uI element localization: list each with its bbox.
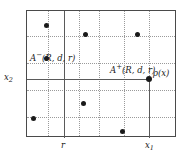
gridline-horizontal	[27, 90, 175, 91]
rho-point	[146, 76, 152, 82]
region-label-a-plus-args: (R, d, r)	[122, 65, 155, 75]
threshold-line-x1	[149, 79, 150, 138]
region-label-a-plus: A+(R, d, r)	[110, 64, 155, 74]
data-point	[44, 23, 49, 28]
axis-label-x: x1	[145, 141, 154, 150]
region-label-a-minus-args: (R, d, r)	[42, 53, 75, 63]
threshold-line-x2	[27, 79, 149, 80]
data-point	[81, 101, 86, 106]
axis-label-y: x2	[4, 73, 13, 82]
data-point	[83, 32, 88, 37]
gridline-horizontal	[27, 117, 175, 118]
axis-tick-label-r: r	[61, 141, 65, 150]
rho-point-label: ρ(x)	[153, 69, 169, 78]
figure-root: A−(R, d, r) A+(R, d, r) ρ(x) x2 r x1	[0, 0, 191, 159]
data-point	[120, 129, 125, 134]
axis-label-y-subscript: 2	[9, 76, 13, 84]
axis-label-x-subscript: 1	[150, 144, 154, 152]
data-point	[31, 116, 36, 121]
threshold-line-r	[64, 11, 65, 138]
region-label-a-minus: A−(R, d, r)	[30, 52, 75, 62]
gridline-horizontal	[27, 36, 175, 37]
plot-frame: A−(R, d, r) A+(R, d, r) ρ(x)	[26, 10, 176, 137]
data-point	[135, 32, 140, 37]
